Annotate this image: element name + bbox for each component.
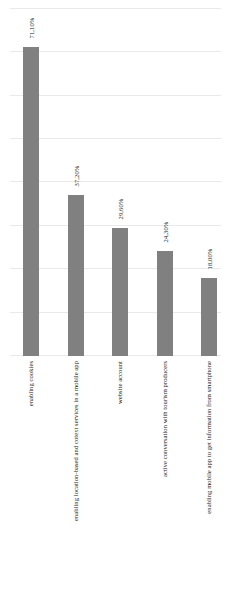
category-label: enabling location-based and cotext servi… <box>72 361 79 521</box>
category-axis: enabling cookiesenabling location-based … <box>0 356 234 612</box>
bar-group[interactable]: 29,60% <box>112 0 128 356</box>
bar[interactable] <box>112 228 128 357</box>
bar[interactable] <box>68 195 84 357</box>
bar-value-label: 29,60% <box>116 203 125 219</box>
plot-area: 71,10%37,20%29,60%24,30%18,00% <box>0 0 234 356</box>
bar-group[interactable]: 18,00% <box>201 0 217 356</box>
bar-value-label: 71,10% <box>27 23 36 39</box>
bar-group[interactable]: 71,10% <box>23 0 39 356</box>
bar-group[interactable]: 37,20% <box>68 0 84 356</box>
category-label: active conversation with tourism produce… <box>161 361 168 477</box>
bar-value-label: 24,30% <box>160 226 169 242</box>
bar[interactable] <box>201 278 217 356</box>
category-label: website account <box>117 361 124 404</box>
bar-value-label: 18,00% <box>205 253 214 269</box>
bar[interactable] <box>157 251 173 356</box>
category-label: enabling cookies <box>28 361 35 406</box>
bar-chart: 71,10%37,20%29,60%24,30%18,00% enabling … <box>0 0 234 612</box>
category-label: enabling mobile app to get information f… <box>206 361 213 514</box>
bar[interactable] <box>23 47 39 356</box>
bar-value-label: 37,20% <box>71 170 80 186</box>
bar-group[interactable]: 24,30% <box>157 0 173 356</box>
